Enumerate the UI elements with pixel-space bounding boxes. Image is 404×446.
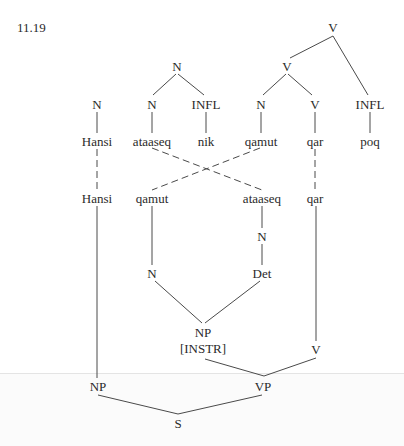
word-ataaseq-top: ataaseq <box>133 135 171 148</box>
branch-ntop-n <box>153 74 176 95</box>
node-v-qar: V <box>310 98 319 111</box>
word-hansi-bottom: Hansi <box>82 192 112 205</box>
node-vp: VP <box>255 380 272 393</box>
node-v-mid: V <box>282 60 291 73</box>
branch-np-s <box>98 395 178 414</box>
branch-n-np <box>155 281 202 323</box>
node-infl-nik: INFL <box>192 98 221 111</box>
node-v-top: V <box>328 21 337 34</box>
word-poq: poq <box>360 135 380 148</box>
node-n-qamut: N <box>256 98 265 111</box>
example-number: 11.19 <box>17 20 46 36</box>
branch-vp-s <box>178 395 262 414</box>
word-qar-top: qar <box>307 135 324 148</box>
node-n-hansi: N <box>92 98 101 111</box>
branch-vmid-n <box>263 74 286 95</box>
word-nik: nik <box>198 135 215 148</box>
node-n-under-ataaseq: N <box>257 230 266 243</box>
diagram-canvas: 11.19 V N V N N INFL N V INFL Hansi ataa… <box>0 0 404 446</box>
branch-np-vp <box>205 359 264 376</box>
node-instr-feature: [INSTR] <box>180 342 226 355</box>
branch-vtop-infl <box>333 36 368 95</box>
word-qamut-bottom: qamut <box>136 192 169 205</box>
node-n-left: N <box>147 267 156 280</box>
word-hansi-top: Hansi <box>82 135 112 148</box>
word-qar-bottom: qar <box>307 192 324 205</box>
node-det: Det <box>253 267 272 280</box>
tree-branches <box>0 0 404 446</box>
node-infl-poq: INFL <box>356 98 385 111</box>
branch-ntop-infl <box>178 74 204 95</box>
branch-vmid-v <box>288 74 312 95</box>
node-s: S <box>174 417 181 430</box>
word-qamut-top: qamut <box>245 135 278 148</box>
branch-det-np <box>205 281 260 323</box>
node-np-instr: NP <box>195 326 212 339</box>
node-np-subject: NP <box>90 380 107 393</box>
branch-v-vp <box>264 358 316 376</box>
node-n-ataaseq: N <box>147 98 156 111</box>
branch-vtop-vmid <box>290 36 333 58</box>
word-ataaseq-bottom: ataaseq <box>243 192 281 205</box>
node-n-top: N <box>172 60 181 73</box>
node-v-right: V <box>311 343 320 356</box>
